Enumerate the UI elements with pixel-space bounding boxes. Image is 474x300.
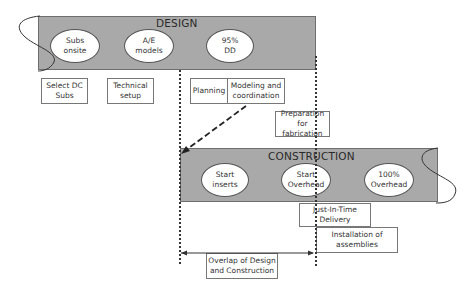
arrowhead-right-icon <box>308 251 314 256</box>
construction-continuation-curve <box>422 148 456 203</box>
dashed-dependency-arrow <box>186 106 246 150</box>
diagram-connectors <box>0 0 474 300</box>
design-continuation-curve <box>19 16 54 71</box>
arrowhead-left-icon <box>181 251 187 256</box>
arrowhead-icon <box>181 146 190 154</box>
